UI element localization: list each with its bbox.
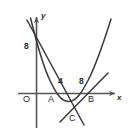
- point-b-label: B: [88, 95, 94, 104]
- parabola-line-diagram: 8 O 4 8 A B C x y: [0, 0, 135, 135]
- point-c-label: C: [69, 114, 76, 123]
- parabola-curve: [31, 18, 112, 102]
- y-intercept-value-label: 8: [24, 42, 29, 51]
- y-axis-label: y: [41, 11, 45, 20]
- point-a-label: A: [48, 95, 54, 104]
- ascending-line: [60, 73, 108, 122]
- coordinate-graph-canvas: [0, 0, 135, 135]
- origin-label: O: [23, 95, 30, 104]
- x-axis-label: x: [117, 93, 121, 102]
- x-tick-four-label: 4: [58, 77, 63, 86]
- x-tick-eight-label: 8: [79, 77, 84, 86]
- descending-line: [27, 20, 84, 125]
